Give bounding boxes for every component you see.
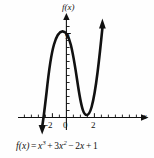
equation-op3: + bbox=[84, 141, 92, 151]
x-axis bbox=[18, 114, 149, 120]
equation-arg: (x) bbox=[19, 141, 30, 151]
x-tick-label-0: 0 bbox=[63, 121, 68, 130]
plot-area bbox=[0, 0, 154, 140]
plot-svg bbox=[0, 0, 154, 140]
equation-op2: − bbox=[67, 141, 75, 151]
y-axis-arrow-icon bbox=[63, 13, 69, 20]
x-axis-label: x bbox=[143, 113, 147, 121]
function-equation: f(x)=x3+3x2−2x+1 bbox=[16, 142, 98, 152]
equation-equals: = bbox=[30, 141, 38, 151]
x-tick-label-neg2: -2 bbox=[45, 121, 53, 130]
function-graph-figure: f(x) x 9 -2 0 2 f(x)=x3+3x2−2x+1 bbox=[0, 0, 154, 158]
equation-op1: + bbox=[46, 141, 54, 151]
y-axis-label: f(x) bbox=[62, 3, 75, 12]
x-axis-ticks bbox=[24, 113, 136, 117]
x-tick-label-2: 2 bbox=[91, 121, 96, 130]
equation-term4: 1 bbox=[93, 141, 98, 151]
y-tick-label-9: 9 bbox=[65, 32, 70, 41]
curve-arrow-upper-right-icon bbox=[99, 19, 106, 29]
